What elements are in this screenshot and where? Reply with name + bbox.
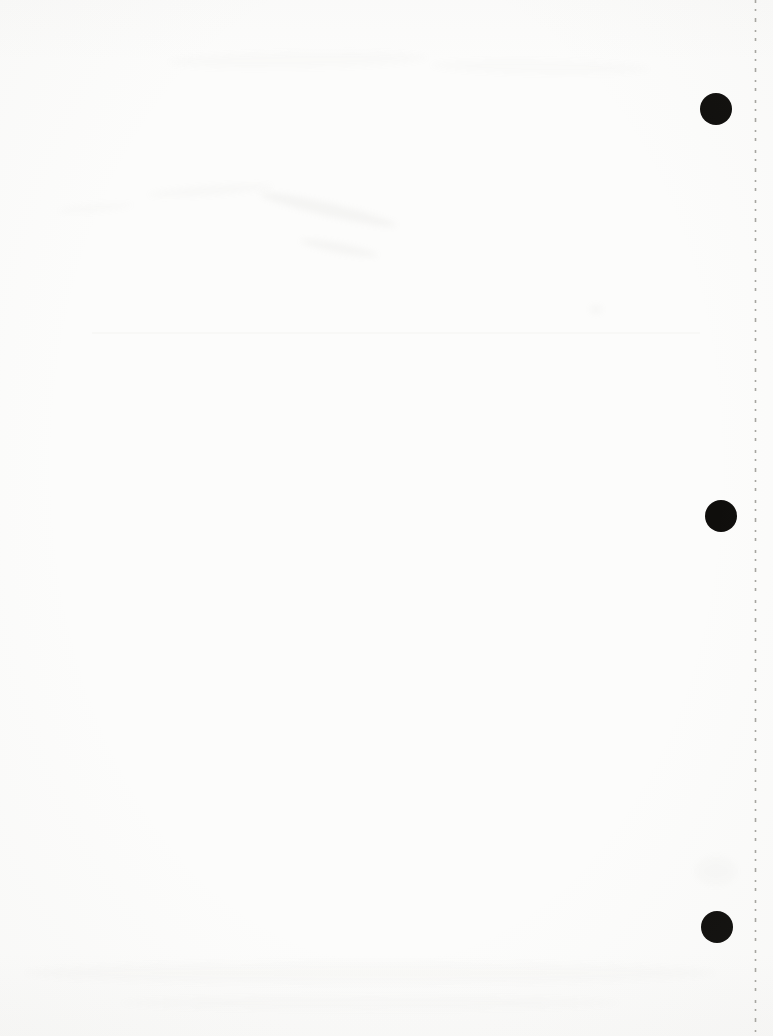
hole-punch-dot: [705, 500, 737, 532]
hole-punch-dot: [701, 911, 733, 943]
hole-punch-dot: [700, 93, 732, 125]
scanned-blank-page: [0, 0, 773, 1036]
scan-marks-layer: [0, 0, 773, 1036]
